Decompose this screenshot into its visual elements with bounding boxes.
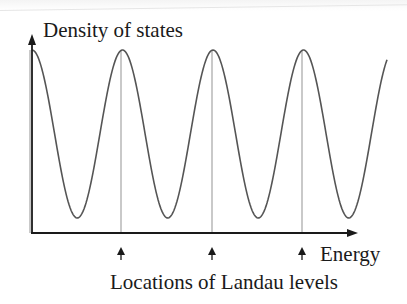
- y-axis-label: Density of states: [43, 20, 183, 41]
- x-axis-arrow-icon: [347, 229, 358, 237]
- up-arrow-icon: [208, 247, 216, 260]
- figure-caption: Locations of Landau levels: [110, 272, 338, 293]
- x-axis-label: Energy: [320, 244, 380, 265]
- guide-lines: [30, 50, 302, 233]
- y-axis-arrow-icon: [28, 34, 36, 45]
- axes: [28, 34, 358, 237]
- up-arrow-icon: [298, 247, 306, 260]
- up-arrow-icon: [117, 247, 125, 260]
- dos-curve: [32, 50, 387, 218]
- landau-level-arrows: [117, 247, 306, 260]
